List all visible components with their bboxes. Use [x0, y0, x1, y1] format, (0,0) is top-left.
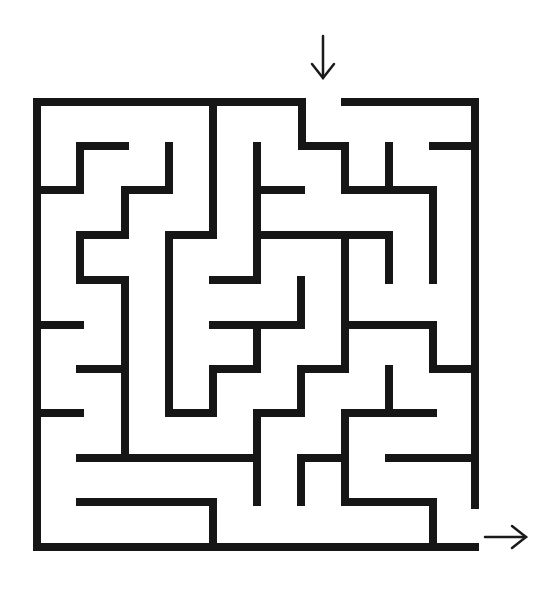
entrance-arrow-icon	[312, 36, 334, 78]
maze-board	[0, 0, 557, 589]
maze-walls	[37, 102, 475, 547]
exit-arrow-icon	[485, 526, 526, 548]
